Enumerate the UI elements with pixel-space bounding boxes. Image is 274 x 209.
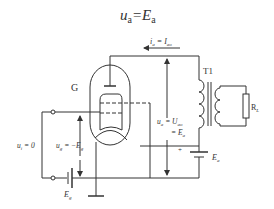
grid-battery-label: Eg [63, 190, 72, 200]
input-voltage-label: ui = 0 [17, 141, 35, 151]
grid-voltage-label: ug = −Eg [56, 141, 84, 151]
input-terminal-bottom [51, 176, 55, 180]
anode-wire [110, 56, 199, 80]
plus-sign: + [178, 146, 182, 154]
title: ua=Ea [120, 7, 156, 25]
anode-voltage-label-2: = Ea [171, 128, 186, 138]
transformer-secondary [215, 88, 220, 124]
cathode-heater [95, 130, 127, 140]
load-label: RL [251, 103, 259, 113]
anode-battery-label: Ea [211, 153, 220, 163]
cathode-shield [100, 94, 122, 130]
current-label: ia = Iao [150, 37, 172, 47]
input-terminal-top [51, 110, 55, 114]
tube-label: G [71, 82, 78, 93]
circuit-diagram: ua=Ea [0, 0, 274, 209]
load-resistor [243, 94, 249, 118]
transformer-primary [199, 80, 204, 146]
transformer-label: T1 [203, 66, 213, 76]
anode-voltage-label: ua = Uao [157, 117, 183, 127]
